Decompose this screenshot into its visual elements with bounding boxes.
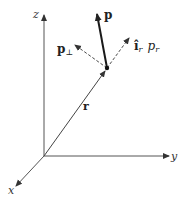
- radial-component-label: îr pr: [134, 37, 159, 54]
- p-perp-sub: ⊥: [65, 48, 73, 57]
- particle-point: [105, 66, 109, 70]
- x-axis: [16, 156, 44, 186]
- position-vector-r: [44, 71, 105, 156]
- radial-component-sub: r: [155, 45, 159, 54]
- r-vector-label: r: [83, 101, 89, 112]
- diagram-canvas: [0, 0, 183, 203]
- z-axis-label: z: [33, 9, 39, 20]
- perpendicular-component-vector: [75, 45, 107, 68]
- x-axis-label: x: [8, 185, 14, 196]
- p-perpendicular-label: p⊥: [57, 40, 73, 57]
- vector-diagram: z y x r p p⊥ îr pr: [0, 0, 183, 203]
- momentum-vector-p: [97, 14, 107, 68]
- y-axis-label: y: [171, 151, 177, 162]
- unit-vector-sub: r: [139, 45, 143, 54]
- p-vector-label: p: [104, 9, 112, 21]
- radial-component-vector: [107, 38, 129, 68]
